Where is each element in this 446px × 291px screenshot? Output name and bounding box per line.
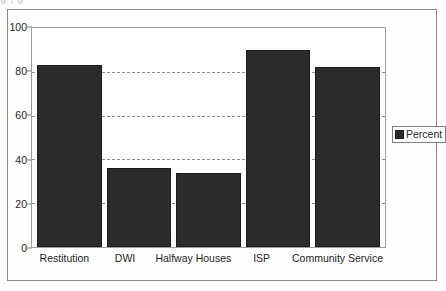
bar-slot-dwi	[104, 28, 173, 247]
bar-isp[interactable]	[246, 50, 311, 247]
bar-dwi[interactable]	[107, 168, 172, 247]
y-tick-label-40: 40	[15, 154, 27, 166]
cropped-caption-artifact-text: g , g	[0, 0, 24, 4]
bar-slot-restitution	[35, 28, 104, 247]
x-label-isp: ISP	[231, 252, 292, 272]
x-label-halfway-houses: Halfway Houses	[155, 252, 231, 272]
bar-community-service[interactable]	[315, 67, 380, 247]
y-tick-label-100: 100	[9, 21, 27, 33]
y-tick-label-60: 60	[15, 109, 27, 121]
bar-series-percent	[32, 28, 385, 247]
bar-halfway-houses[interactable]	[176, 173, 241, 247]
y-tick-label-20: 20	[15, 198, 27, 210]
bar-slot-halfway-houses	[174, 28, 243, 247]
bar-slot-isp	[243, 28, 312, 247]
y-axis: 0 20 40 60 80 100	[5, 27, 29, 248]
y-tick-label-80: 80	[15, 65, 27, 77]
bar-restitution[interactable]	[37, 65, 102, 247]
cropped-caption-artifact: g , g	[0, 0, 445, 9]
legend-label-percent: Percent	[406, 129, 442, 140]
chart-legend[interactable]: Percent	[392, 126, 446, 143]
x-axis-labels: Restitution DWI Halfway Houses ISP Commu…	[31, 252, 386, 272]
x-label-dwi: DWI	[95, 252, 156, 272]
x-label-restitution: Restitution	[34, 252, 95, 272]
plot-area	[31, 27, 386, 248]
bar-slot-community-service	[313, 28, 382, 247]
x-label-community-service: Community Service	[292, 252, 383, 272]
percent-swatch-icon	[395, 130, 404, 139]
